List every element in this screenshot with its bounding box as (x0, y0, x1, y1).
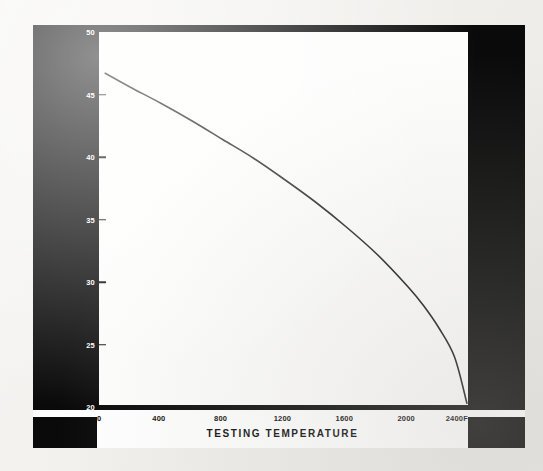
x-tick-label: 800 (214, 414, 227, 423)
x-axis-title: TESTING TEMPERATURE (97, 428, 468, 439)
x-tick-label: 400 (152, 414, 165, 423)
y-tick-label: 25 (69, 340, 95, 349)
x-tick-label: 2400F (446, 414, 468, 423)
y-tick-label: 40 (69, 153, 95, 162)
y-tick-label: 50 (69, 28, 95, 37)
x-tick-label: 0 (97, 414, 101, 423)
y-tick-label: 30 (69, 278, 95, 287)
y-tick-label: 35 (69, 215, 95, 224)
x-axis-tick-marks (97, 32, 468, 417)
scanned-paper-background: STATIC MODULUS OF ELASTICITY—1,000,000 p… (0, 0, 543, 471)
x-tick-label: 2000 (397, 414, 415, 423)
x-tick-label: 1200 (274, 414, 292, 423)
x-axis-strip: TESTING TEMPERATURE 04008001200160020002… (97, 410, 468, 448)
x-tick-label: 1600 (336, 414, 354, 423)
chart-figure: STATIC MODULUS OF ELASTICITY—1,000,000 p… (33, 25, 525, 448)
y-tick-label: 45 (69, 90, 95, 99)
y-axis-tick-labels: 20253035404550 (63, 25, 95, 448)
y-tick-label: 20 (69, 403, 95, 412)
